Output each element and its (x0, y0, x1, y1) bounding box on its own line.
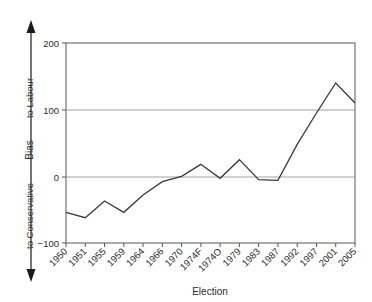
y-tick-label-200: 200 (43, 38, 59, 49)
plot-frame (66, 43, 355, 243)
direction-label-labour-group: to Labour (24, 78, 35, 118)
x-tick-label-1950: 1950 (47, 246, 70, 269)
x-tick-label-1992: 1992 (278, 246, 301, 269)
direction-label-labour: to Labour (24, 78, 35, 118)
arrow-head-down-icon (27, 269, 36, 282)
y-tick-marks (62, 43, 66, 243)
direction-label-conservative: to Conservative (24, 183, 35, 249)
x-tick-label-2001: 2001 (316, 246, 339, 269)
series-line-bias (66, 83, 355, 218)
bias-line-chart: to Labour to Conservative Bias 200 100 0… (0, 0, 372, 302)
x-tick-label-1955: 1955 (85, 246, 108, 269)
x-tick-label-1983: 1983 (239, 246, 262, 269)
x-tick-label-1964: 1964 (124, 246, 147, 269)
x-tick-label-1979: 1979 (220, 246, 243, 269)
direction-label-conservative-group: to Conservative (24, 183, 35, 249)
y-tick-label-minus100: −100 (38, 238, 59, 249)
x-tick-label-1959: 1959 (104, 246, 127, 269)
x-tick-label-1987: 1987 (259, 246, 282, 269)
y-tick-label-0: 0 (54, 172, 59, 183)
x-tick-label-2005: 2005 (336, 246, 359, 269)
x-tick-label-1951: 1951 (66, 246, 89, 269)
arrow-head-up-icon (27, 20, 36, 33)
x-tick-label-1997: 1997 (297, 246, 320, 269)
y-tick-label-100: 100 (43, 105, 59, 116)
x-tick-label-1966: 1966 (143, 246, 166, 269)
chart-figure: to Labour to Conservative Bias 200 100 0… (0, 0, 372, 302)
x-axis-title: Election (192, 286, 228, 297)
x-axis-group: 19501951195519591964196619701974F1974O19… (47, 243, 359, 274)
y-axis-title: Bias (24, 140, 35, 159)
